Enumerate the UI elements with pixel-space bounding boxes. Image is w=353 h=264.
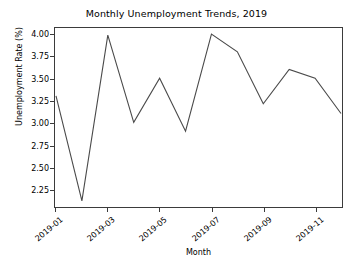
- y-tick-mark: [50, 123, 54, 124]
- y-tick-label: 3.75: [21, 52, 49, 61]
- line-series: [55, 28, 342, 207]
- x-tick-mark: [316, 208, 317, 212]
- x-tick-label: 2019-09: [234, 215, 273, 250]
- y-tick-label: 2.50: [21, 163, 49, 172]
- series-polyline: [56, 34, 341, 201]
- x-tick-mark: [159, 208, 160, 212]
- x-tick-mark: [55, 208, 56, 212]
- y-tick-label: 2.75: [21, 141, 49, 150]
- y-tick-label: 3.50: [21, 74, 49, 83]
- y-tick-mark: [50, 101, 54, 102]
- x-tick-label: 2019-01: [25, 215, 64, 250]
- y-tick-label: 4.00: [21, 30, 49, 39]
- y-tick-mark: [50, 168, 54, 169]
- x-tick-label: 2019-05: [130, 215, 169, 250]
- y-tick-mark: [50, 146, 54, 147]
- x-tick-label: 2019-07: [182, 215, 221, 250]
- x-tick-mark: [264, 208, 265, 212]
- chart-title: Monthly Unemployment Trends, 2019: [0, 8, 353, 19]
- y-tick-label: 3.00: [21, 119, 49, 128]
- plot-area: [54, 27, 343, 208]
- y-tick-mark: [50, 190, 54, 191]
- y-tick-mark: [50, 56, 54, 57]
- y-tick-label: 2.25: [21, 186, 49, 195]
- x-axis-label: Month: [54, 248, 343, 257]
- x-tick-mark: [212, 208, 213, 212]
- x-tick-mark: [107, 208, 108, 212]
- y-tick-mark: [50, 34, 54, 35]
- y-tick-label: 3.25: [21, 97, 49, 106]
- x-tick-label: 2019-03: [77, 215, 116, 250]
- y-tick-mark: [50, 79, 54, 80]
- chart-figure: Monthly Unemployment Trends, 2019 Unempl…: [0, 0, 353, 264]
- x-tick-label: 2019-11: [286, 215, 325, 250]
- y-axis-tick-labels: 2.252.502.753.003.253.503.754.00: [19, 27, 49, 208]
